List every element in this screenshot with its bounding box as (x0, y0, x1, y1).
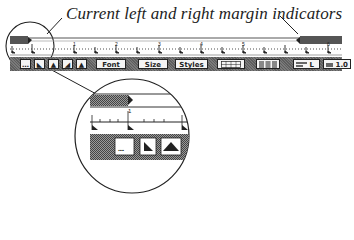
table-button[interactable] (217, 59, 245, 69)
align-left-icon (296, 62, 307, 68)
ruler-number: 2 (115, 41, 118, 47)
right-margin-indicator (300, 36, 342, 44)
ruler-toolbar: … ◣ ▲ ◢ ▲ Font Size Styles L 1.0 (10, 57, 342, 71)
left-tab-icon: ◣ (37, 60, 42, 70)
right-tab-icon: ◢ (65, 60, 70, 70)
left-tab-button[interactable]: ◣ (34, 59, 45, 69)
font-button[interactable]: Font (96, 59, 126, 69)
ruler-number: 1 (73, 41, 76, 47)
magnified-ruler-number: 1 (128, 108, 131, 114)
center-tab-icon: ▲ (51, 60, 56, 70)
styles-button[interactable]: Styles (175, 59, 208, 69)
left-margin-indicator (10, 36, 28, 44)
spacing-icon (326, 63, 333, 67)
justification-label: L (309, 60, 313, 70)
center-tab-button[interactable]: ▲ (48, 59, 59, 69)
ruler-graphic (10, 36, 342, 56)
ruler-number: 6 (327, 41, 330, 47)
columns-icon (259, 61, 277, 68)
decimal-tab-icon: ▲ (79, 60, 84, 70)
grid-icon (221, 61, 241, 68)
magnified-dotted-leader-icon: .... (118, 145, 124, 152)
right-tab-button[interactable]: ◢ (62, 59, 73, 69)
justification-button[interactable]: L (293, 59, 320, 69)
dotted-leader-button[interactable]: … (20, 59, 31, 69)
size-button[interactable]: Size (138, 59, 168, 69)
ruler[interactable]: 1 2 3 4 5 6 (10, 36, 342, 56)
ruler-number: 5 (242, 41, 245, 47)
line-spacing-value: 1.0 (336, 60, 348, 70)
ruler-number: 3 (158, 41, 161, 47)
decimal-tab-button[interactable]: ▲ (76, 59, 87, 69)
columns-button[interactable] (256, 59, 280, 69)
dotted-leader-icon: … (22, 60, 29, 70)
magnifier-graphic (70, 78, 194, 196)
magnified-margin-detail: 1 .... (70, 78, 194, 196)
line-spacing-button[interactable]: 1.0 (323, 59, 351, 69)
ruler-number: 4 (200, 41, 203, 47)
